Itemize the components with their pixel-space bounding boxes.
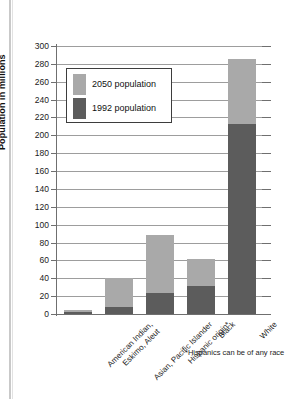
bar-3 xyxy=(187,259,215,314)
x-category-label-line: White xyxy=(257,320,278,341)
bar-1 xyxy=(105,278,133,314)
legend-swatch-2050 xyxy=(73,74,86,95)
bar-segment-1992 xyxy=(146,293,174,314)
axis-tick-right xyxy=(262,82,271,83)
y-tick-label: 40 xyxy=(23,274,49,283)
y-tick-label: 280 xyxy=(23,60,49,69)
axis-tick-right xyxy=(262,135,271,136)
bar-segment-1992 xyxy=(228,124,256,314)
bar-segment-2050 xyxy=(228,59,256,124)
bar-segment-1992 xyxy=(187,286,215,314)
axis-tick-left xyxy=(51,171,56,172)
axis-tick-right xyxy=(262,207,271,208)
axis-tick-right xyxy=(262,225,271,226)
y-tick-label: 80 xyxy=(23,239,49,248)
axis-tick-left xyxy=(51,100,56,101)
axis-tick-left xyxy=(51,153,56,154)
bar-segment-2050 xyxy=(187,259,215,287)
y-tick-label: 260 xyxy=(23,78,49,87)
axis-tick-left xyxy=(51,278,56,279)
legend-swatch-1992 xyxy=(73,98,86,119)
y-tick-label: 220 xyxy=(23,113,49,122)
x-category-label-4: White xyxy=(257,320,278,341)
y-tick-label: 120 xyxy=(23,203,49,212)
y-tick-label: 0 xyxy=(23,310,49,319)
x-axis-line xyxy=(56,314,265,315)
bar-0 xyxy=(64,310,92,314)
y-tick-label: 240 xyxy=(23,96,49,105)
axis-tick-right xyxy=(262,243,271,244)
axis-tick-left xyxy=(51,207,56,208)
axis-tick-left xyxy=(51,64,56,65)
bar-segment-1992 xyxy=(64,312,92,314)
chart-footnote: *Hispanics can be of any race xyxy=(185,348,284,357)
axis-tick-left xyxy=(51,296,56,297)
x-category-label-0: American Indian,Eskimo, Aleut xyxy=(105,320,161,376)
axis-tick-right xyxy=(262,153,271,154)
axis-tick-left xyxy=(51,46,56,47)
gridline xyxy=(57,46,262,47)
axis-tick-right xyxy=(262,100,271,101)
y-tick-label: 140 xyxy=(23,185,49,194)
axis-tick-right xyxy=(262,189,271,190)
axis-tick-left xyxy=(51,260,56,261)
bar-4 xyxy=(228,59,256,314)
axis-tick-right xyxy=(262,64,271,65)
axis-tick-right xyxy=(262,296,271,297)
population-bar-chart: Population in millions 02040608010012014… xyxy=(0,0,301,399)
legend-label-1992: 1992 population xyxy=(92,103,156,113)
axis-tick-left xyxy=(51,82,56,83)
y-tick-label: 100 xyxy=(23,221,49,230)
y-tick-label: 160 xyxy=(23,167,49,176)
axis-tick-left xyxy=(51,314,56,315)
bar-segment-2050 xyxy=(146,235,174,292)
y-tick-label: 180 xyxy=(23,149,49,158)
axis-tick-right xyxy=(262,314,271,315)
axis-tick-left xyxy=(51,189,56,190)
legend-label-2050: 2050 population xyxy=(92,79,156,89)
axis-tick-right xyxy=(262,171,271,172)
axis-tick-left xyxy=(51,243,56,244)
chart-legend: 2050 population 1992 population xyxy=(66,68,172,123)
axis-tick-right xyxy=(262,46,271,47)
y-tick-label: 200 xyxy=(23,131,49,140)
bar-segment-1992 xyxy=(105,307,133,314)
axis-tick-right xyxy=(262,278,271,279)
axis-tick-right xyxy=(262,260,271,261)
y-tick-label: 20 xyxy=(23,292,49,301)
y-tick-label: 300 xyxy=(23,42,49,51)
y-tick-label: 60 xyxy=(23,256,49,265)
axis-tick-left xyxy=(51,225,56,226)
bar-segment-2050 xyxy=(105,278,133,307)
axis-tick-right xyxy=(262,117,271,118)
y-axis-title: Population in millions xyxy=(0,54,7,150)
axis-tick-left xyxy=(51,117,56,118)
bar-2 xyxy=(146,235,174,314)
axis-tick-left xyxy=(51,135,56,136)
